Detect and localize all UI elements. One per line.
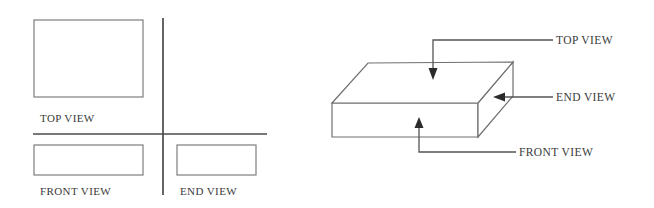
front-view-rectangle: [34, 145, 143, 175]
top-view-caption: TOP VIEW: [40, 112, 95, 124]
front-view-caption: FRONT VIEW: [40, 185, 111, 197]
orthographic-panel: TOP VIEW FRONT VIEW END VIEW: [33, 18, 267, 197]
drawing-canvas: TOP VIEW FRONT VIEW END VIEW TOP VIEW EN…: [0, 0, 654, 208]
top-view-callout-label: TOP VIEW: [556, 34, 613, 46]
top-view-rectangle: [34, 20, 143, 97]
end-view-callout-label: END VIEW: [556, 91, 616, 103]
front-view-callout-label: FRONT VIEW: [519, 146, 593, 158]
end-view-rectangle: [177, 145, 256, 175]
technical-drawing-figure: TOP VIEW FRONT VIEW END VIEW TOP VIEW EN…: [0, 0, 654, 208]
block-front-face: [332, 103, 478, 137]
pictorial-panel: TOP VIEW END VIEW FRONT VIEW: [332, 34, 616, 158]
end-view-caption: END VIEW: [180, 185, 237, 197]
